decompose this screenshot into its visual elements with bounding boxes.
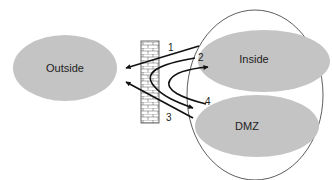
flow-arrow-1 bbox=[126, 46, 199, 68]
zone-outside: Outside bbox=[13, 35, 117, 101]
zone-inside: Inside bbox=[198, 30, 330, 92]
zone-dmz: DMZ bbox=[195, 95, 319, 157]
flow-label-3: 3 bbox=[166, 112, 172, 123]
flow-label-4: 4 bbox=[205, 96, 211, 107]
firewall-icon bbox=[141, 41, 159, 123]
flow-arrow-4 bbox=[169, 67, 208, 104]
network-diagram: Outside Inside DMZ 1 2 4 3 bbox=[0, 0, 332, 180]
flow-label-1: 1 bbox=[168, 42, 174, 53]
zone-outside-label: Outside bbox=[46, 62, 84, 74]
flow-arrow-3 bbox=[126, 82, 193, 118]
flow-label-2: 2 bbox=[198, 52, 204, 63]
zone-dmz-label: DMZ bbox=[235, 120, 259, 132]
zone-inside-label: Inside bbox=[239, 53, 268, 65]
